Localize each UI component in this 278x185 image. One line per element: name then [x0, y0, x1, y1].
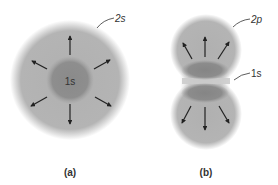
label-1s-a: 1s: [65, 76, 76, 87]
leader-line-2s: [97, 18, 114, 28]
label-2p: 2p: [250, 14, 263, 25]
orbital-1s-top: [181, 60, 229, 80]
panel-a: 1s 2s (a): [10, 13, 130, 178]
orbital-1s-bottom: [181, 83, 229, 103]
panel-b: 2p 1s (b): [170, 14, 263, 178]
orbital-diagram: 1s 2s (a) 2p 1s (b): [0, 0, 278, 185]
leader-line-2p: [233, 19, 250, 27]
label-2s: 2s: [114, 13, 126, 24]
caption-a: (a): [64, 167, 76, 178]
label-1s-b: 1s: [251, 68, 262, 79]
caption-b: (b): [200, 167, 213, 178]
leader-line-1s-b: [234, 73, 250, 80]
